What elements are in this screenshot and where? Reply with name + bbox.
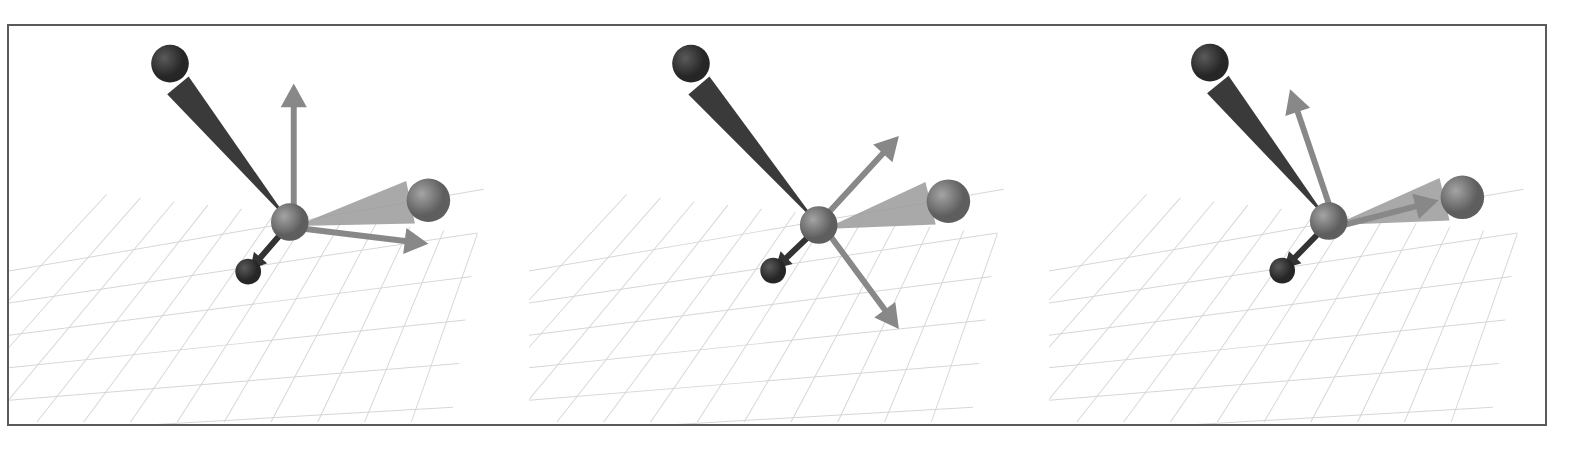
dark-bone-cone xyxy=(688,76,818,225)
joint-sphere xyxy=(800,206,838,244)
ground-grid xyxy=(9,189,484,424)
figure-frame xyxy=(7,24,1547,426)
dark-arrow-bulb xyxy=(1269,258,1295,284)
dark-bone-cone xyxy=(167,77,290,222)
joint-sphere xyxy=(271,203,309,241)
light-end-sphere xyxy=(927,179,971,223)
light-end-sphere xyxy=(407,178,451,222)
light-bone-cone xyxy=(825,182,936,229)
light-axis-arrow-b xyxy=(827,231,899,329)
light-axis-arrow-a xyxy=(281,83,307,216)
render-panel-1 xyxy=(9,26,529,424)
render-panel-3 xyxy=(1049,26,1547,424)
render-panel-2 xyxy=(529,26,1049,424)
dark-end-sphere xyxy=(1191,44,1229,82)
dark-arrow-bulb xyxy=(235,259,261,285)
light-end-sphere xyxy=(1441,175,1485,219)
cropped-caption-fragment xyxy=(8,448,68,456)
ground-grid xyxy=(1049,189,1524,424)
dark-end-sphere xyxy=(672,45,710,83)
dark-end-sphere xyxy=(151,45,189,83)
light-bone-cone xyxy=(296,181,415,226)
joint-sphere xyxy=(1310,202,1348,240)
dark-arrow-bulb xyxy=(760,258,786,284)
ground-grid xyxy=(529,189,1004,424)
